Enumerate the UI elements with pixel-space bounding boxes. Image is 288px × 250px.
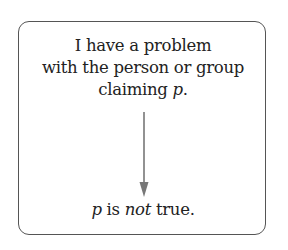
variable-p: p	[91, 200, 101, 219]
premise-line-1: I have a problem	[18, 35, 268, 57]
conclusion-true: true.	[151, 200, 195, 219]
premise-text: I have a problem with the person or grou…	[18, 35, 268, 101]
premise-line-3: claiming p.	[18, 79, 268, 101]
premise-period: .	[183, 80, 188, 99]
down-arrow-icon	[138, 112, 150, 198]
premise-line-2: with the person or group	[18, 57, 268, 79]
variable-p: p	[173, 80, 183, 99]
conclusion-text: p is not true.	[18, 199, 268, 221]
premise-line-3-text: claiming	[98, 80, 172, 99]
conclusion-is: is	[102, 200, 125, 219]
emphasis-not: not	[125, 200, 151, 219]
